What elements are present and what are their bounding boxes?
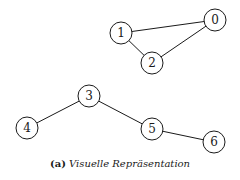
caption-title: Visuelle Repräsentation — [69, 158, 190, 169]
node-label: 3 — [85, 89, 93, 103]
node-label: 2 — [148, 56, 156, 70]
node-label: 5 — [148, 122, 156, 136]
node-label: 0 — [211, 13, 219, 27]
node-2: 2 — [141, 52, 163, 74]
graph-diagram: 0123456 — [0, 0, 240, 180]
figure-caption: (a) Visuelle Repräsentation — [0, 158, 240, 169]
caption-label: (a) — [50, 158, 66, 169]
node-1: 1 — [110, 22, 132, 44]
edge-1-0 — [121, 20, 215, 33]
node-0: 0 — [204, 9, 226, 31]
node-4: 4 — [16, 117, 38, 139]
node-5: 5 — [141, 118, 163, 140]
node-label: 6 — [210, 135, 218, 149]
node-label: 4 — [23, 121, 31, 135]
graph-nodes: 0123456 — [16, 9, 226, 153]
node-6: 6 — [203, 131, 225, 153]
node-label: 1 — [117, 26, 125, 40]
node-3: 3 — [78, 85, 100, 107]
